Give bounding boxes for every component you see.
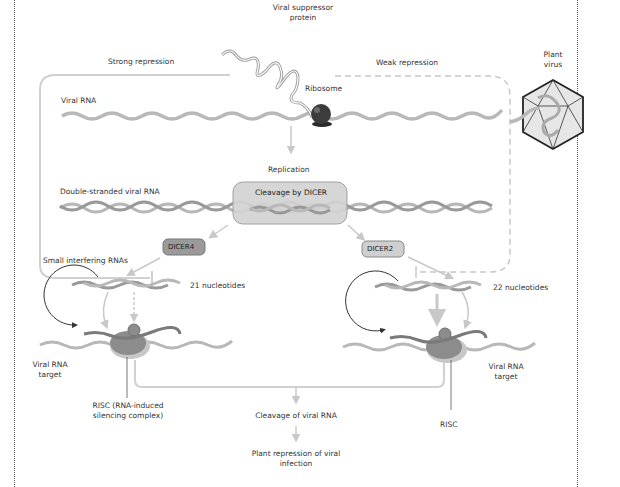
viral-suppressor-protein [222, 51, 312, 117]
label-small-interfering-rnas: Small interfering RNAs [43, 256, 128, 266]
label-line: infection [246, 459, 346, 469]
label-plant-repression: Plant repression of viral infection [246, 449, 346, 468]
viral-rna-strand [62, 110, 502, 119]
label-ribosome: Ribosome [305, 84, 342, 94]
label-22-nucleotides: 22 nucleotides [493, 283, 548, 293]
label-replication: Replication [268, 165, 310, 175]
label-viral-rna: Viral RNA [61, 96, 96, 106]
label-21-nucleotides: 21 nucleotides [190, 281, 245, 291]
risc-right-complex [343, 328, 535, 363]
label-weak-repression: Weak repression [376, 58, 438, 68]
label-cleavage-of-viral-rna: Cleavage of viral RNA [246, 411, 346, 421]
sirna-21nt [72, 280, 180, 288]
label-viral-suppressor-protein: Viral suppressor protein [262, 3, 344, 22]
label-risc-right: RISC [440, 420, 457, 430]
label-line: protein [262, 13, 344, 23]
sirna-22nt [375, 282, 481, 290]
risc-left-complex [40, 324, 232, 359]
weak-repression-line [335, 76, 510, 278]
label-line: target [486, 372, 526, 382]
label-line: Plant [535, 50, 571, 60]
label-line: Viral RNA [486, 362, 526, 372]
label-line: Plant repression of viral [246, 449, 346, 459]
plant-virus-icon [510, 80, 583, 149]
ribosome-icon [311, 104, 332, 127]
label-line: target [30, 370, 70, 380]
label-strong-repression: Strong repression [108, 57, 174, 67]
label-risc-left: RISC (RNA-induced silencing complex) [88, 401, 168, 420]
label-line: RISC (RNA-induced [88, 401, 168, 411]
label-line: Viral RNA [30, 360, 70, 370]
label-line: Viral suppressor [262, 3, 344, 13]
label-viral-rna-target-right: Viral RNA target [486, 362, 526, 381]
label-cleavage-by-dicer: Cleavage by DICER [255, 188, 327, 198]
label-line: virus [535, 60, 571, 70]
label-dicer2: DICER2 [367, 245, 393, 255]
label-plant-virus: Plant virus [535, 50, 571, 69]
label-viral-rna-target-left: Viral RNA target [30, 360, 70, 379]
label-double-stranded-viral-rna: Double-stranded viral RNA [60, 187, 160, 197]
label-dicer4: DICER4 [168, 243, 194, 253]
label-line: silencing complex) [88, 411, 168, 421]
